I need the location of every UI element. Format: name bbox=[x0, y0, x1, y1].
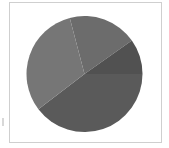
pie-chart bbox=[0, 0, 169, 148]
